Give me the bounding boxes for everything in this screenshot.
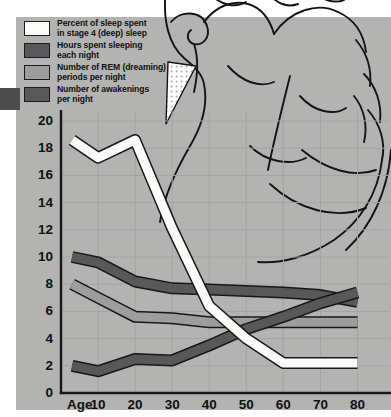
legend-item-hours-sleeping: Hours spent sleeping each night bbox=[24, 41, 224, 62]
x-tick-label: 80 bbox=[341, 397, 373, 412]
legend-swatch-awakenings bbox=[24, 87, 50, 102]
y-tick-label: 20 bbox=[19, 113, 53, 128]
x-tick-label: 10 bbox=[82, 397, 114, 412]
y-tick-label: 8 bbox=[19, 276, 53, 291]
plot-area: 02468101214161820 Age1020304050607080 bbox=[16, 110, 391, 410]
x-tick-label: 60 bbox=[267, 397, 299, 412]
chart-canvas bbox=[16, 110, 391, 410]
legend-swatch-stage4 bbox=[24, 21, 50, 36]
x-tick-label: 70 bbox=[304, 397, 336, 412]
y-tick-label: 0 bbox=[19, 385, 53, 400]
legend-label-rem: Number of REM (dreaming) periods per nig… bbox=[57, 63, 166, 82]
x-tick-label: 50 bbox=[230, 397, 262, 412]
legend-item-stage4: Percent of sleep spent in stage 4 (deep)… bbox=[24, 19, 224, 40]
legend-label-awakenings: Number of awakenings per night bbox=[57, 85, 149, 104]
legend-label-stage4: Percent of sleep spent in stage 4 (deep)… bbox=[57, 19, 147, 38]
legend-swatch-hours-sleeping bbox=[24, 43, 50, 58]
y-tick-label: 6 bbox=[19, 303, 53, 318]
series-hours_sleeping bbox=[72, 257, 357, 302]
page-edge-tab bbox=[0, 88, 20, 110]
y-tick-label: 2 bbox=[19, 358, 53, 373]
legend-label-hours-sleeping: Hours spent sleeping each night bbox=[57, 41, 142, 60]
series-layer bbox=[72, 140, 357, 371]
x-tick-label: 40 bbox=[193, 397, 225, 412]
y-tick-label: 4 bbox=[19, 331, 53, 346]
x-tick-label: 30 bbox=[156, 397, 188, 412]
legend-item-rem: Number of REM (dreaming) periods per nig… bbox=[24, 63, 224, 84]
legend: Percent of sleep spent in stage 4 (deep)… bbox=[24, 19, 224, 105]
series-outline-stage4_percent bbox=[72, 140, 357, 363]
x-tick-label: 20 bbox=[119, 397, 151, 412]
legend-item-awakenings: Number of awakenings per night bbox=[24, 85, 224, 106]
series-body-stage4_percent bbox=[72, 140, 357, 363]
y-tick-label: 14 bbox=[19, 195, 53, 210]
sleep-chart-figure: Percent of sleep spent in stage 4 (deep)… bbox=[0, 0, 391, 417]
y-tick-label: 16 bbox=[19, 167, 53, 182]
y-tick-label: 10 bbox=[19, 249, 53, 264]
y-tick-label: 18 bbox=[19, 140, 53, 155]
y-tick-label: 12 bbox=[19, 222, 53, 237]
series-stage4_percent bbox=[72, 140, 357, 363]
legend-swatch-rem bbox=[24, 65, 50, 80]
